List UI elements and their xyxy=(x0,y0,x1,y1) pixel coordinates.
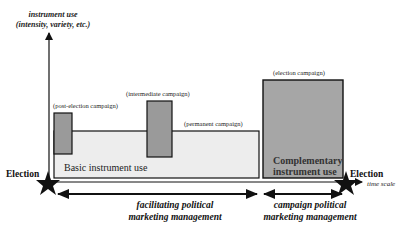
complementary-line2: instrument use xyxy=(273,166,342,177)
political-marketing-diagram: instrument use (intensity, variety, etc.… xyxy=(0,0,412,232)
election-label-end: Election xyxy=(350,169,383,179)
facilitating-line2: marketing management xyxy=(100,211,250,223)
campaign-phase-label: campaign political marketing management xyxy=(250,199,370,223)
facilitating-phase-label: facilitating political marketing managem… xyxy=(100,199,250,223)
complementary-label: Complementary instrument use xyxy=(273,155,342,177)
election-campaign-label: (election campaign) xyxy=(273,69,325,76)
permanent-label: (permanent campaign) xyxy=(184,120,243,127)
election-label-start: Election xyxy=(6,169,39,179)
time-scale-label: time scale xyxy=(367,180,395,188)
y-axis-title-line2: (intensity, variety, etc.) xyxy=(8,20,98,30)
campaign-line1: campaign political xyxy=(250,199,370,211)
intermediate-box xyxy=(147,101,172,157)
post-election-label: (post-election campaign) xyxy=(53,102,118,109)
campaign-line2: marketing management xyxy=(250,211,370,223)
y-axis-title: instrument use (intensity, variety, etc.… xyxy=(8,10,98,30)
y-axis-title-line1: instrument use xyxy=(8,10,98,20)
diagram-shapes xyxy=(0,0,412,232)
basic-instrument-label: Basic instrument use xyxy=(64,162,147,173)
facilitating-line1: facilitating political xyxy=(100,199,250,211)
intermediate-label: (intermediate campaign) xyxy=(126,90,190,97)
complementary-line1: Complementary xyxy=(273,155,342,166)
post-election-box xyxy=(54,113,72,154)
